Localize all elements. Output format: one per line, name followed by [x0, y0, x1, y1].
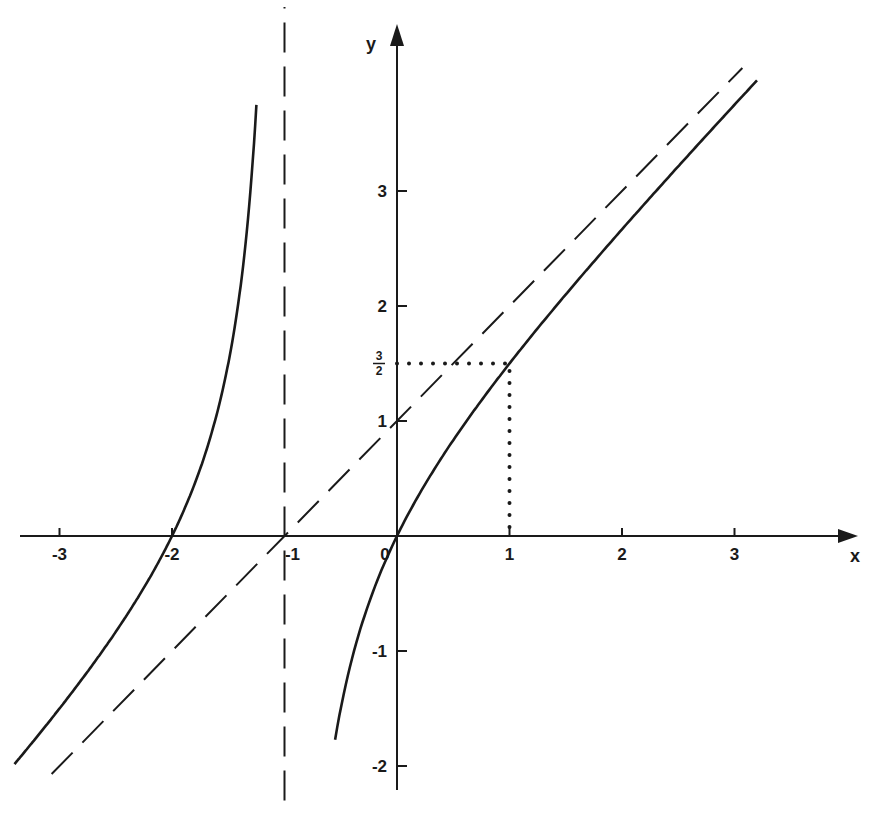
y-tick-label: 1 [378, 412, 387, 431]
x-axis-arrow-icon [838, 529, 858, 543]
function-plot: x y -3-2-10123321-1-232 [0, 0, 890, 835]
curve-left-branch [15, 105, 257, 764]
line-guide-to-point-1-3-2 [397, 364, 510, 537]
x-tick-label: -2 [164, 545, 179, 564]
x-tick-label: 0 [380, 545, 389, 564]
y-tick-label: 2 [378, 297, 387, 316]
x-tick-label: 3 [730, 545, 739, 564]
curve-right-branch [335, 80, 757, 739]
fraction-denominator: 2 [376, 364, 383, 378]
x-tick-label: 1 [505, 545, 514, 564]
y-tick-label: 3 [378, 182, 387, 201]
x-tick-label: -3 [52, 545, 67, 564]
y-tick-label: -1 [372, 642, 387, 661]
y-tick-fraction-label: 32 [373, 349, 385, 378]
axes-layer: x y [20, 24, 860, 790]
fraction-numerator: 3 [376, 349, 383, 363]
ticks-layer: -3-2-10123321-1-232 [52, 182, 739, 776]
x-axis-label: x [850, 546, 860, 566]
x-tick-label: -1 [285, 545, 300, 564]
y-axis-arrow-icon [390, 24, 404, 46]
x-tick-label: 2 [617, 545, 626, 564]
y-axis-label: y [366, 34, 376, 54]
y-tick-label: -2 [372, 757, 387, 776]
curves-layer [15, 7, 758, 801]
